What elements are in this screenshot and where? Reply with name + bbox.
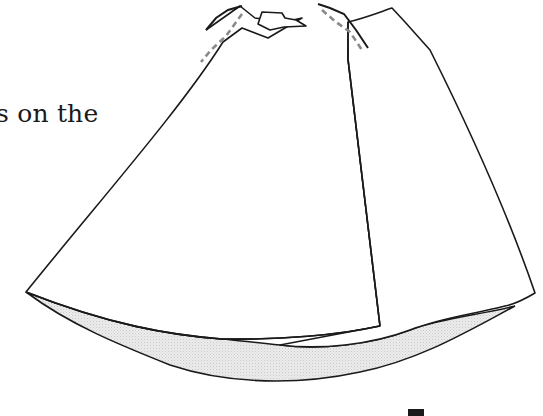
cape-left-panel xyxy=(26,6,380,339)
cape-illustration xyxy=(0,0,543,416)
page-text-fragment xyxy=(408,409,424,416)
